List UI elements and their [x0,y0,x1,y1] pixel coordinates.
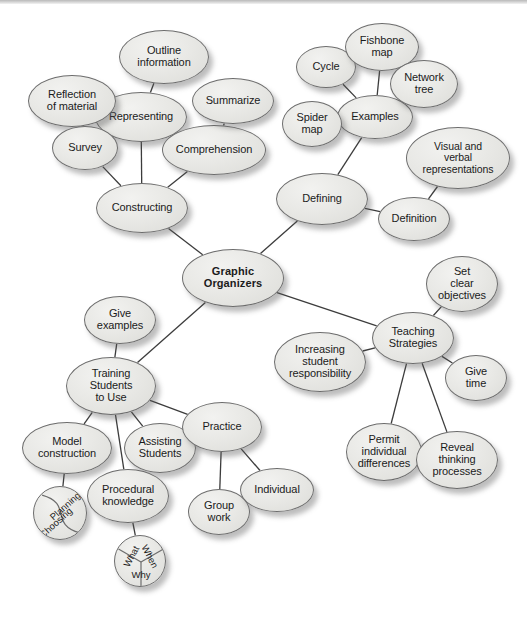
node-label-group-work: Groupwork [201,500,237,524]
node-label-cycle: Cycle [309,61,342,73]
node-reveal-thinking-processes[interactable]: Revealthinkingprocesses [416,431,498,489]
node-label-definition: Definition [389,213,440,225]
node-label-assisting-students: AssistingStudents [135,436,184,460]
node-outline-information[interactable]: Outlineinformation [119,30,209,84]
node-label-give-time: Givetime [462,366,490,390]
node-label-individual: Individual [251,484,302,496]
node-label-procedural-knowledge: Proceduralknowledge [99,484,157,508]
node-survey[interactable]: Survey [52,126,118,170]
node-label-comprehension: Comprehension [173,144,255,156]
node-spider-map[interactable]: Spidermap [282,101,342,147]
node-label-constructing: Constructing [109,202,176,214]
node-individual[interactable]: Individual [240,468,314,512]
node-label-permit-individual-differences: Permitindividualdifferences [355,434,414,470]
node-give-examples[interactable]: Giveexamples [84,296,156,344]
node-permit-individual-differences[interactable]: Permitindividualdifferences [346,423,422,481]
segment-label-why: Why [132,569,151,580]
node-increasing-student-responsibility[interactable]: Increasingstudentresponsibility [274,332,366,392]
node-label-defining: Defining [299,193,345,205]
node-planning-choosing[interactable]: PlanningChoosing [33,486,87,540]
node-label-teaching-strategies: TeachingStrategies [386,326,441,350]
node-procedural-knowledge[interactable]: Proceduralknowledge [87,469,169,523]
node-comprehension[interactable]: Comprehension [162,125,266,175]
node-label-fishbone-map: Fishbonemap [357,35,407,59]
node-label-representing: Representing [106,111,176,123]
node-label-model-construction: Modelconstruction [35,436,99,460]
node-training-students-to-use[interactable]: TrainingStudentsto Use [66,357,156,415]
node-label-summarize: Summarize [203,95,264,107]
node-label-outline-information: Outlineinformation [134,45,193,69]
node-label-give-examples: Giveexamples [94,308,146,332]
node-teaching-strategies[interactable]: TeachingStrategies [372,312,454,364]
node-model-construction[interactable]: Modelconstruction [22,422,112,474]
node-label-set-clear-objectives: Setclearobjectives [435,266,489,302]
node-label-training-students-to-use: TrainingStudentsto Use [87,368,136,404]
node-label-reflection-of-material: Reflectionof material [44,89,100,113]
node-label-examples: Examples [348,111,402,123]
node-label-practice: Practice [200,421,245,433]
node-network-tree[interactable]: Networktree [390,60,458,108]
node-definition[interactable]: Definition [378,197,450,241]
node-set-clear-objectives[interactable]: Setclearobjectives [426,256,498,312]
node-label-network-tree: Networktree [401,72,447,96]
node-what-when-why[interactable]: WhatWhenWhy [114,535,166,587]
node-label-survey: Survey [65,142,105,154]
node-label-spider-map: Spidermap [293,112,330,136]
node-practice[interactable]: Practice [182,402,262,452]
node-label-visual-verbal-representations: Visual andverbalrepresentations [420,141,497,175]
node-visual-verbal-representations[interactable]: Visual andverbalrepresentations [406,127,510,189]
node-graphic-organizers[interactable]: GraphicOrganizers [182,249,284,307]
node-label-increasing-student-responsibility: Increasingstudentresponsibility [286,344,354,380]
node-summarize[interactable]: Summarize [192,78,274,124]
node-layer: GraphicOrganizersConstructingRepresentin… [0,0,527,618]
node-reflection-of-material[interactable]: Reflectionof material [28,75,116,127]
concept-map-canvas: GraphicOrganizersConstructingRepresentin… [0,0,527,618]
node-label-graphic-organizers: GraphicOrganizers [201,266,265,290]
node-give-time[interactable]: Givetime [445,355,507,401]
node-constructing[interactable]: Constructing [96,183,188,233]
node-label-reveal-thinking-processes: Revealthinkingprocesses [429,442,484,478]
node-defining[interactable]: Defining [276,173,368,225]
